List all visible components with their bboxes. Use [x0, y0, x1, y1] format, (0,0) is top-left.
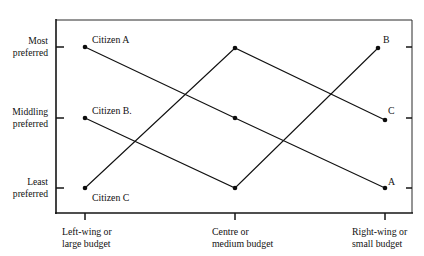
x-tick-label-centre-line2: medium budget [212, 238, 273, 249]
series-point-citizen-b-centre [233, 186, 238, 191]
series-point-citizen-c-right [383, 118, 388, 123]
series-label-citizen-a-end: A [388, 176, 395, 187]
x-tick-label-right-line1: Right-wing or [352, 226, 408, 237]
series-point-citizen-a-centre [233, 116, 238, 121]
series-label-citizen-b-end: B [383, 34, 390, 45]
y-tick-label-least-line1: Least [27, 176, 48, 187]
series-point-citizen-c-centre [233, 46, 238, 51]
y-tick-label-most-line2: preferred [13, 47, 48, 58]
series-label-citizen-a-start: Citizen A [92, 34, 129, 45]
x-tick-label-left-line2: large budget [62, 238, 111, 249]
chart-figure: Most preferred Middling preferred Least … [0, 0, 424, 256]
series-point-citizen-c-left [83, 186, 88, 191]
series-point-citizen-a-right [383, 186, 388, 191]
series-label-citizen-b-start: Citizen B. [92, 105, 132, 116]
y-tick-label-most-line1: Most [28, 35, 48, 46]
series-point-citizen-a-left [83, 45, 88, 50]
series-label-citizen-c-start: Citizen C [92, 192, 129, 203]
x-tick-label-right-line2: small budget [352, 238, 403, 249]
y-tick-label-least-line2: preferred [13, 188, 48, 199]
series-label-citizen-c-end: C [388, 105, 395, 116]
series-point-citizen-b-right [376, 46, 381, 51]
x-tick-label-centre-line1: Centre or [212, 226, 249, 237]
y-tick-label-middling-line2: preferred [13, 118, 48, 129]
x-tick-label-left-line1: Left-wing or [62, 226, 113, 237]
chart-background [0, 0, 424, 256]
y-tick-label-middling-line1: Middling [12, 106, 48, 117]
chart-svg: Most preferred Middling preferred Least … [0, 0, 424, 256]
series-point-citizen-b-left [83, 116, 88, 121]
